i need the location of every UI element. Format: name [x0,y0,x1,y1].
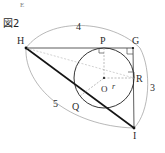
segment-HR-dashed [26,48,134,78]
center-label-O: O [101,85,108,94]
center-point-O [103,77,105,79]
vertex-dot-I [133,127,136,130]
outer-arc-top [26,25,140,48]
vertex-label-G: G [132,36,139,46]
outer-arc-right [134,48,148,128]
corner-mark-e: E [20,2,24,9]
right-angle-mark-G [127,48,133,54]
vertex-label-I: I [133,131,136,141]
figure-canvas: E 図2 H G I P R Q O r 4 3 5 [0,0,165,153]
vertex-dot-H [25,47,28,50]
segment-GI [133,48,134,128]
figure-caption: 図2 [3,19,19,29]
vertex-dot-G [132,47,134,49]
side-length-HG: 4 [76,22,81,32]
tangent-label-Q: Q [72,102,79,112]
side-length-HI: 5 [53,99,58,109]
radius-label-r: r [112,83,115,91]
tangent-label-R: R [136,74,143,84]
vertex-label-H: H [17,36,24,46]
tangent-label-P: P [100,36,106,46]
side-length-GI: 3 [150,83,155,93]
